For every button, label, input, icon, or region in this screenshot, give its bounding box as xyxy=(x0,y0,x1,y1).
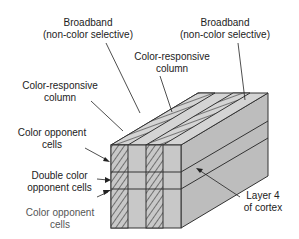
label-broadband-left: Broadband (non-color selective) xyxy=(38,17,138,40)
label-color-responsive-column-left: Color-responsive column xyxy=(15,80,105,103)
label-layer-4-of-cortex: Layer 4 of cortex xyxy=(238,190,288,213)
label-color-opponent-top: Color opponent cells xyxy=(12,127,92,150)
front-hatch-column-2 xyxy=(146,145,163,228)
label-broadband-right: Broadband (non-color selective) xyxy=(175,17,275,40)
front-hatch-column-1 xyxy=(111,145,128,228)
label-color-opponent-bottom: Color opponent cells xyxy=(20,207,100,230)
label-color-responsive-column-mid: Color-responsive column xyxy=(122,51,222,74)
label-double-color-opponent: Double color opponent cells xyxy=(22,170,97,193)
